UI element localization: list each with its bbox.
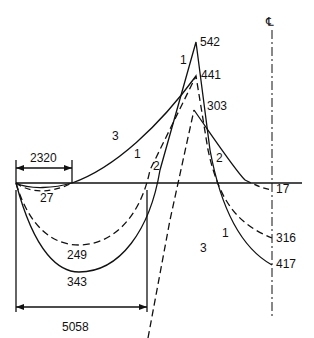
diagram-canvas: ℄ 542 1 441 303 3 1 2 2 2320 27 17 1 3 2…: [0, 0, 314, 338]
label-1-mid: 1: [134, 147, 141, 161]
label-1-upper: 1: [180, 53, 187, 67]
arrow-icon: [16, 304, 24, 310]
arrow-icon: [64, 165, 72, 171]
bending-moment-diagram: ℄ 542 1 441 303 3 1 2 2 2320 27 17 1 3 2…: [0, 0, 314, 338]
label-441: 441: [201, 68, 221, 82]
label-2-right: 2: [216, 151, 223, 165]
label-2-mid: 2: [153, 159, 160, 173]
label-17: 17: [276, 182, 290, 196]
label-5058: 5058: [62, 320, 89, 334]
label-27: 27: [40, 191, 54, 205]
curve-3-left: [16, 76, 196, 188]
label-3-right: 3: [200, 241, 207, 255]
label-2320: 2320: [30, 151, 57, 165]
label-1-right: 1: [222, 226, 229, 240]
label-417: 417: [276, 257, 296, 271]
arrow-icon: [16, 165, 24, 171]
centerline-symbol: ℄: [265, 15, 274, 29]
curve-2-right-solid: [194, 110, 245, 180]
curve-2-rise: [148, 110, 194, 338]
label-542: 542: [200, 35, 220, 49]
arrow-icon: [139, 304, 147, 310]
label-303: 303: [207, 99, 227, 113]
label-249: 249: [67, 248, 87, 262]
label-316: 316: [276, 231, 296, 245]
label-343: 343: [67, 275, 87, 289]
curve-2-right-dashed: [245, 180, 272, 190]
label-3-left: 3: [112, 129, 119, 143]
